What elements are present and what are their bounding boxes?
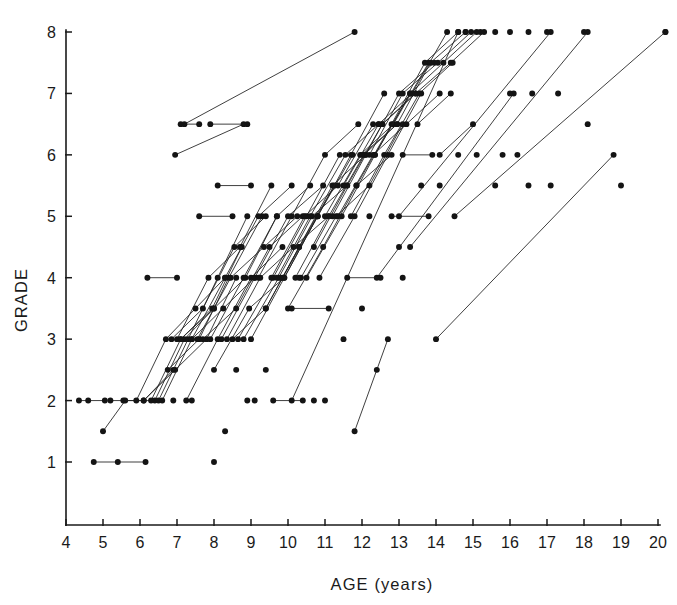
data-point [366, 213, 372, 219]
data-point [448, 60, 454, 66]
x-axis-tick-label: 4 [61, 534, 70, 551]
data-point [289, 305, 295, 311]
data-point [662, 29, 668, 35]
data-point [463, 29, 469, 35]
trajectory-line [301, 124, 403, 278]
data-point [270, 398, 276, 404]
data-point [200, 305, 206, 311]
subject-trajectory [181, 29, 357, 127]
data-point [344, 275, 350, 281]
data-point [144, 275, 150, 281]
y-axis-tick-label: 2 [47, 393, 56, 410]
data-point [230, 336, 236, 342]
data-point [315, 213, 321, 219]
data-point [326, 305, 332, 311]
trajectory-line [184, 32, 354, 124]
data-point [244, 121, 250, 127]
data-point [307, 213, 313, 219]
data-point [374, 367, 380, 373]
data-point [268, 183, 274, 189]
x-axis-tick-label: 17 [538, 534, 556, 551]
subject-trajectory [215, 183, 254, 189]
data-point [133, 398, 139, 404]
data-point [322, 152, 328, 158]
data-point [529, 90, 535, 96]
data-point [378, 275, 384, 281]
x-axis-tick-label: 15 [464, 534, 482, 551]
data-point [366, 152, 372, 158]
trajectory-line [168, 216, 262, 370]
data-point [205, 275, 211, 281]
data-point [492, 29, 498, 35]
data-point [433, 336, 439, 342]
data-point [296, 275, 302, 281]
data-point [244, 213, 250, 219]
subject-trajectory [91, 459, 149, 465]
subject-trajectory [389, 213, 432, 219]
data-point [163, 336, 169, 342]
data-point [385, 336, 391, 342]
data-point [233, 367, 239, 373]
data-point [107, 398, 113, 404]
data-point [289, 183, 295, 189]
data-point [263, 305, 269, 311]
subject-trajectory [196, 213, 235, 219]
subject-trajectory [270, 398, 306, 404]
data-point [268, 275, 274, 281]
x-axis-tick-label: 9 [246, 534, 255, 551]
x-axis-tick-label: 10 [279, 534, 297, 551]
data-point [555, 90, 561, 96]
data-point [477, 29, 483, 35]
x-axis-tick-label: 16 [501, 534, 519, 551]
data-point [507, 29, 513, 35]
x-axis-tick-label: 12 [353, 534, 371, 551]
data-point [403, 121, 409, 127]
data-point [526, 29, 532, 35]
y-axis-ticks: 12345678 [47, 24, 72, 471]
data-point [581, 29, 587, 35]
data-point [248, 183, 254, 189]
data-point [413, 90, 419, 96]
trajectory-line [103, 401, 125, 432]
data-point [452, 213, 458, 219]
data-point [448, 90, 454, 96]
trajectory-line [325, 63, 429, 217]
data-point [278, 275, 284, 281]
data-point [241, 336, 247, 342]
data-point [470, 121, 476, 127]
data-point [263, 213, 269, 219]
data-point [544, 29, 550, 35]
data-point [548, 183, 554, 189]
data-point [400, 152, 406, 158]
trajectory-line [355, 339, 388, 431]
subject-trajectory [255, 121, 361, 280]
data-point [165, 367, 171, 373]
trajectory-line [382, 32, 484, 124]
subject-trajectory [433, 152, 617, 342]
data-point [100, 428, 106, 434]
data-point [255, 213, 261, 219]
data-point [379, 121, 385, 127]
data-point [426, 213, 432, 219]
data-point [585, 121, 591, 127]
data-point [211, 459, 217, 465]
data-point [141, 398, 147, 404]
data-point [429, 152, 435, 158]
data-point [246, 305, 252, 311]
data-point [329, 213, 335, 219]
data-point [224, 336, 230, 342]
data-point [289, 213, 295, 219]
data-point [474, 152, 480, 158]
x-axis-tick-label: 19 [612, 534, 630, 551]
data-point [359, 152, 365, 158]
data-point [500, 152, 506, 158]
subject-trajectory [178, 121, 202, 127]
data-point [618, 183, 624, 189]
data-point [76, 398, 82, 404]
data-point [437, 90, 443, 96]
y-axis-tick-label: 7 [47, 85, 56, 102]
data-point [211, 367, 217, 373]
data-point [279, 244, 285, 250]
data-point [231, 244, 237, 250]
data-point [322, 398, 328, 404]
